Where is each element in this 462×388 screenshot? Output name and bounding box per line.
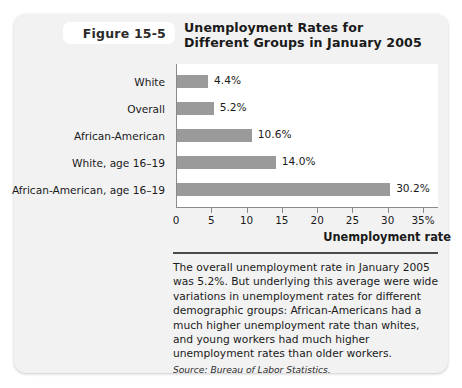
caption-divider (173, 252, 438, 254)
x-axis-tick (317, 208, 318, 213)
bar-value-label: 4.4% (214, 74, 241, 86)
x-axis-tick-label: 15 (275, 214, 288, 226)
x-axis-tick (352, 208, 353, 213)
x-axis-title: Unemployment rate (176, 230, 451, 244)
x-axis-tick-label: 10 (240, 214, 253, 226)
figure-title: Unemployment Rates for Different Groups … (184, 20, 442, 50)
x-axis-tick-label: 25 (346, 214, 359, 226)
figure-number-badge: Figure 15-5 (63, 22, 175, 44)
figure-title-line-1: Unemployment Rates for (184, 20, 442, 35)
category-label: Overall (127, 103, 172, 116)
category-label: African-American, age 16–19 (12, 184, 172, 197)
x-axis-tick (388, 208, 389, 213)
x-axis-tick-label: 0 (173, 214, 180, 226)
category-label: White (134, 76, 172, 89)
category-label: White, age 16–19 (72, 157, 172, 170)
figure-number-label: Figure 15-5 (83, 26, 166, 41)
x-axis-tick (282, 208, 283, 213)
figure-caption-block: The overall unemployment rate in January… (173, 252, 438, 375)
figure-title-line-2: Different Groups in January 2005 (184, 35, 442, 50)
chart-plot-area: 4.4%5.2%10.6%14.0%30.2% (176, 64, 438, 207)
bar-value-label: 30.2% (396, 182, 430, 194)
chart-category-labels: WhiteOverallAfrican-AmericanWhite, age 1… (14, 64, 172, 207)
x-axis-tick (423, 208, 424, 213)
bar (177, 183, 390, 196)
x-axis-tick-label: 20 (311, 214, 324, 226)
caption-text: The overall unemployment rate in January… (173, 261, 438, 362)
category-label: African-American (74, 130, 172, 143)
figure-header: Figure 15-5 Unemployment Rates for Diffe… (14, 22, 448, 66)
x-axis-line (176, 207, 438, 208)
bar-value-label: 5.2% (220, 101, 247, 113)
figure-card: Figure 15-5 Unemployment Rates for Diffe… (14, 14, 448, 373)
x-axis-tick-label: 35% (411, 214, 434, 226)
bar (177, 129, 252, 142)
bar-value-label: 14.0% (282, 155, 316, 167)
bar (177, 75, 208, 88)
bar (177, 156, 276, 169)
bar (177, 102, 214, 115)
x-axis-tick (247, 208, 248, 213)
x-axis-tick-label: 5 (208, 214, 215, 226)
chart-plot-panel: 4.4%5.2%10.6%14.0%30.2% (176, 64, 438, 207)
caption-source: Source: Bureau of Labor Statistics. (173, 365, 438, 375)
x-axis-tick (211, 208, 212, 213)
bar-value-label: 10.6% (258, 128, 292, 140)
x-axis-tick-label: 30 (381, 214, 394, 226)
